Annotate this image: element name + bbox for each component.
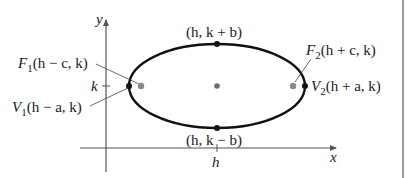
page-edge-divider <box>402 0 404 178</box>
focus2-dot <box>290 83 296 89</box>
top-vertex-label: (h, k + b) <box>186 24 242 41</box>
y-axis-label: y <box>94 11 103 27</box>
center-dot <box>214 83 220 89</box>
vertex2-dot <box>302 83 308 89</box>
focus2-label: F2(h + c, k) <box>305 42 376 61</box>
focus1-label: F1(h − c, k) <box>17 55 88 74</box>
bottom-vertex-dot <box>214 125 220 131</box>
y-tick-label-k: k <box>91 78 98 94</box>
vertex1-dot <box>126 83 132 89</box>
ellipse-diagram: y x k h (h, k + b) (h, k − b) F1(h − c, … <box>0 0 408 178</box>
x-axis-label: x <box>329 149 337 165</box>
vertex2-label: V2(h + a, k) <box>311 78 381 97</box>
x-tick-label-h: h <box>212 154 220 170</box>
focus1-dot <box>138 83 144 89</box>
vertex1-label: V1(h − a, k) <box>12 99 82 118</box>
bottom-vertex-label: (h, k − b) <box>186 132 242 149</box>
top-vertex-dot <box>214 41 220 47</box>
